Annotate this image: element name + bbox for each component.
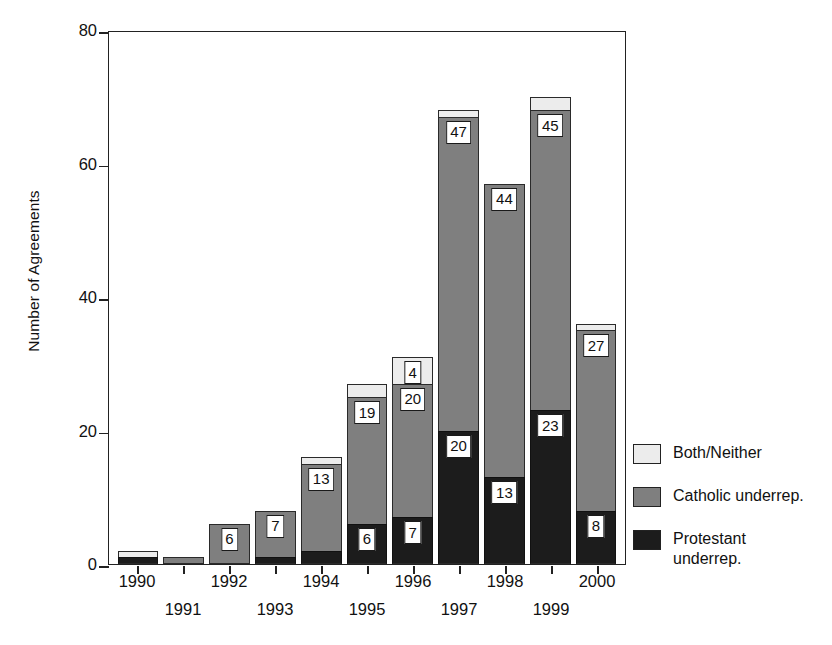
value-label: 4 — [404, 361, 421, 384]
x-axis-label-1993: 1993 — [257, 600, 294, 619]
bar-segment-1994-black — [301, 551, 342, 564]
bar-segment-1994-gray: 13 — [301, 464, 342, 551]
bar-column-1993: 7 — [252, 32, 298, 564]
bar-1991 — [163, 557, 204, 564]
bar-segment-1996-light: 4 — [392, 357, 433, 384]
bar-segment-1995-gray: 19 — [347, 397, 388, 524]
bar-segment-1990-black — [118, 557, 159, 564]
bar-segment-1998-gray: 44 — [484, 184, 525, 478]
y-tick-label: 0 — [55, 555, 97, 574]
legend-item-gray[interactable]: Catholic underrep. — [633, 486, 829, 507]
value-label: 44 — [492, 188, 518, 211]
bar-segment-1991-gray — [163, 557, 204, 564]
value-label: 6 — [221, 528, 238, 551]
value-label: 45 — [537, 114, 563, 137]
value-label: 7 — [404, 521, 421, 544]
value-label: 27 — [583, 334, 609, 357]
y-tick-label: 80 — [55, 21, 97, 40]
value-label: 7 — [267, 515, 284, 538]
legend-item-black[interactable]: Protestant underrep. — [633, 529, 829, 569]
value-label: 6 — [358, 528, 375, 551]
bar-column-1998: 4413 — [482, 32, 528, 564]
bar-column-1997: 4720 — [436, 32, 482, 564]
bar-1990 — [118, 551, 159, 564]
bar-column-1991 — [161, 32, 207, 564]
bar-1995: 196 — [347, 384, 388, 564]
bar-column-2000: 278 — [573, 32, 619, 564]
legend-swatch-gray — [633, 487, 661, 507]
x-axis-label-1990: 1990 — [119, 572, 156, 591]
y-tick-label: 60 — [55, 155, 97, 174]
bar-segment-1999-gray: 45 — [530, 110, 571, 410]
x-axis-label-1997: 1997 — [441, 600, 478, 619]
value-label: 8 — [587, 515, 604, 538]
stacked-bar-chart: Number of Agreements 6713196420747204413… — [0, 0, 832, 645]
bar-column-1996: 4207 — [390, 32, 436, 564]
bar-segment-1996-black: 7 — [392, 517, 433, 564]
chart-legend: Both/NeitherCatholic underrep.Protestant… — [633, 443, 829, 591]
bar-segment-1996-gray: 20 — [392, 384, 433, 518]
bar-segment-1995-black: 6 — [347, 524, 388, 564]
plot-area: 67131964207472044134523278 020406080 — [108, 31, 626, 565]
x-axis-labels: 1990199119921993199419951996199719981999… — [108, 572, 626, 634]
y-axis-title: Number of Agreements — [25, 151, 43, 391]
value-label: 20 — [446, 435, 472, 458]
bar-1992: 6 — [209, 524, 250, 564]
x-axis-label-1996: 1996 — [395, 572, 432, 591]
x-axis-label-2000: 2000 — [579, 572, 616, 591]
y-tick-mark — [99, 166, 109, 168]
y-tick-label: 20 — [55, 422, 97, 441]
bar-column-1992: 6 — [207, 32, 253, 564]
y-tick-mark — [99, 433, 109, 435]
bar-segment-2000-light — [576, 324, 617, 331]
bar-segment-1997-gray: 47 — [438, 117, 479, 431]
bar-1994: 13 — [301, 457, 342, 564]
x-axis-label-1991: 1991 — [165, 600, 202, 619]
legend-label: Protestant underrep. — [673, 529, 746, 569]
bar-1999: 4523 — [530, 97, 571, 564]
bar-segment-1997-light — [438, 110, 479, 117]
bar-column-1994: 13 — [298, 32, 344, 564]
bar-1996: 4207 — [392, 357, 433, 564]
bar-1993: 7 — [255, 511, 296, 564]
y-tick-label: 40 — [55, 288, 97, 307]
value-label: 19 — [354, 401, 380, 424]
bar-segment-1990-light — [118, 551, 159, 558]
bar-2000: 278 — [576, 324, 617, 564]
bar-column-1995: 196 — [344, 32, 390, 564]
legend-swatch-light — [633, 444, 661, 464]
value-label: 13 — [492, 481, 518, 504]
x-axis-label-1992: 1992 — [211, 572, 248, 591]
bar-segment-1993-gray: 7 — [255, 511, 296, 558]
bar-segment-1994-light — [301, 457, 342, 464]
bar-segment-1998-black: 13 — [484, 477, 525, 564]
bar-column-1990 — [115, 32, 161, 564]
value-label: 23 — [537, 414, 563, 437]
bar-segment-1992-gray: 6 — [209, 524, 250, 564]
y-tick-mark — [99, 299, 109, 301]
bar-segment-1993-black — [255, 557, 296, 564]
value-label: 47 — [446, 121, 472, 144]
x-axis-label-1998: 1998 — [487, 572, 524, 591]
y-tick-mark — [99, 32, 109, 34]
bar-segment-1999-black: 23 — [530, 410, 571, 564]
value-label: 13 — [308, 468, 334, 491]
bar-segment-2000-gray: 27 — [576, 330, 617, 510]
x-axis-label-1999: 1999 — [533, 600, 570, 619]
legend-item-light[interactable]: Both/Neither — [633, 443, 829, 464]
legend-label: Catholic underrep. — [673, 486, 804, 506]
legend-label: Both/Neither — [673, 443, 762, 463]
bar-1998: 4413 — [484, 184, 525, 564]
bar-segment-2000-black: 8 — [576, 511, 617, 564]
bar-column-1999: 4523 — [527, 32, 573, 564]
bar-segment-1999-light — [530, 97, 571, 110]
x-axis-label-1994: 1994 — [303, 572, 340, 591]
legend-swatch-black — [633, 530, 661, 550]
bar-1997: 4720 — [438, 110, 479, 564]
bar-segment-1997-black: 20 — [438, 431, 479, 565]
bars-container: 67131964207472044134523278 — [109, 32, 625, 564]
x-axis-label-1995: 1995 — [349, 600, 386, 619]
bar-segment-1995-light — [347, 384, 388, 397]
value-label: 20 — [400, 388, 426, 411]
y-tick-mark — [99, 566, 109, 568]
